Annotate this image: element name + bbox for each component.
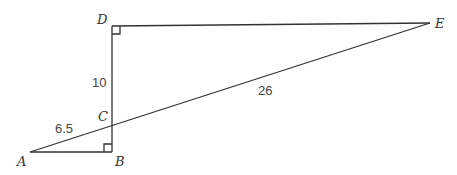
segment-ae xyxy=(30,23,430,152)
vertex-label-e: E xyxy=(434,16,445,31)
right-angle-marker-d xyxy=(112,26,120,34)
length-label-ac: 6.5 xyxy=(55,121,73,136)
length-label-ce: 26 xyxy=(258,83,272,98)
segment-de xyxy=(112,23,430,26)
vertex-label-b: B xyxy=(114,154,125,169)
vertex-label-a: A xyxy=(16,154,26,169)
right-angle-marker-b xyxy=(104,144,112,152)
vertex-label-d: D xyxy=(96,12,108,27)
geometry-diagram: D E C A B 10 6.5 26 xyxy=(0,0,457,175)
vertex-label-c: C xyxy=(98,109,108,124)
length-label-cd: 10 xyxy=(92,75,106,90)
